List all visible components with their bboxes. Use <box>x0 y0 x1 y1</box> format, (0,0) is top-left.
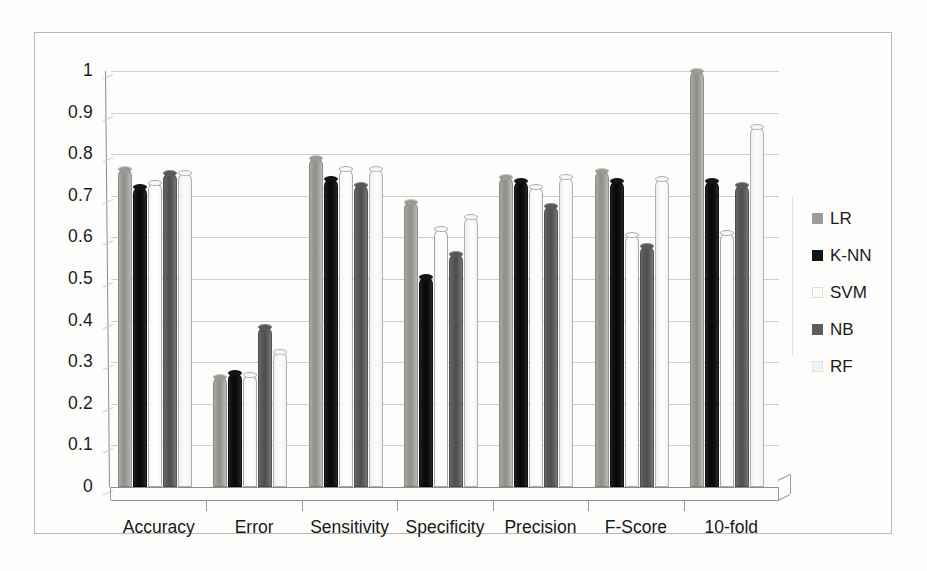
bar <box>309 158 323 487</box>
plot-area: 00.10.20.30.40.50.60.70.80.91 AccuracyEr… <box>111 71 779 487</box>
bar <box>228 373 242 487</box>
y-axis-tick-label: 0.1 <box>33 434 93 455</box>
bar-cap <box>273 349 287 355</box>
x-axis-tick-label: 10-fold <box>661 517 801 538</box>
plot-floor-left-edge <box>110 487 111 500</box>
bar-cap <box>309 155 323 161</box>
bar <box>369 169 383 487</box>
legend-swatch-icon <box>812 250 823 261</box>
bar-group <box>595 71 669 487</box>
bar <box>610 181 624 487</box>
legend-item-label: NB <box>830 320 854 340</box>
bar-cap <box>354 182 368 188</box>
bar <box>690 71 704 487</box>
bar <box>434 229 448 487</box>
bar-group <box>118 71 192 487</box>
bar-cap <box>529 184 543 190</box>
y-axis-tick-label: 0.7 <box>33 185 93 206</box>
bar <box>720 233 734 487</box>
legend-item-k-nn[interactable]: K-NN <box>812 237 890 274</box>
legend-swatch-icon <box>812 287 823 298</box>
y-axis-tick-label: 0.8 <box>33 143 93 164</box>
y-axis-tick-label: 0.4 <box>33 310 93 331</box>
legend-item-lr[interactable]: LR <box>812 200 890 237</box>
bar-cap <box>655 176 669 182</box>
bar <box>464 217 478 487</box>
legend-swatch-icon <box>812 324 823 335</box>
bar-cap <box>625 232 639 238</box>
chart-legend: LRK-NNSVMNBRF <box>812 200 890 385</box>
y-axis-tick-label: 0.6 <box>33 226 93 247</box>
plot-floor-top-edge <box>111 487 779 488</box>
legend-item-rf[interactable]: RF <box>812 348 890 385</box>
bar <box>243 375 257 487</box>
bar <box>163 173 177 487</box>
bar <box>118 169 132 487</box>
bar-cap <box>750 124 764 130</box>
bar <box>544 206 558 487</box>
bar-group <box>309 71 383 487</box>
y-axis-tick-label: 0.5 <box>33 268 93 289</box>
bar <box>750 127 764 487</box>
bar <box>354 185 368 487</box>
plot-floor-front-edge <box>111 500 779 501</box>
legend-item-svm[interactable]: SVM <box>812 274 890 311</box>
bar-cap <box>559 174 573 180</box>
x-axis-separator-tick <box>588 500 589 511</box>
bar-cap <box>514 178 528 184</box>
bar <box>735 185 749 487</box>
bar-cap <box>133 184 147 190</box>
y-axis-tick-label: 0.9 <box>33 102 93 123</box>
bar-cap <box>610 178 624 184</box>
y-axis-tick-label: 0.3 <box>33 351 93 372</box>
bar <box>449 254 463 487</box>
bar <box>499 177 513 487</box>
bar-cap <box>720 230 734 236</box>
bar-cap <box>163 170 177 176</box>
bar-cap <box>735 182 749 188</box>
legend-swatch-icon <box>812 213 823 224</box>
bar <box>273 352 287 487</box>
x-axis-separator-tick <box>493 500 494 511</box>
bar-group <box>499 71 573 487</box>
legend-swatch-icon <box>812 361 823 372</box>
bar-group <box>404 71 478 487</box>
bar-cap <box>178 170 192 176</box>
bar-groups <box>111 71 779 487</box>
bar-cap <box>213 374 227 380</box>
bar <box>258 327 272 487</box>
chart-screenshot: 00.10.20.30.40.50.60.70.80.91 AccuracyEr… <box>0 0 927 571</box>
bar <box>148 183 162 487</box>
bar-cap <box>339 166 353 172</box>
bar <box>339 169 353 487</box>
bar-cap <box>243 372 257 378</box>
x-axis-separator-tick <box>302 500 303 511</box>
bar <box>404 202 418 487</box>
bar <box>419 277 433 487</box>
bar-cap <box>369 166 383 172</box>
bar-cap <box>258 324 272 330</box>
y-axis-tick-label: 0 <box>33 476 93 497</box>
y-axis-tick-label: 0.2 <box>33 393 93 414</box>
bar <box>178 173 192 487</box>
bar-cap <box>690 68 704 74</box>
legend-item-nb[interactable]: NB <box>812 311 890 348</box>
bar-group <box>213 71 287 487</box>
bar-cap <box>705 178 719 184</box>
x-axis-separator-tick <box>684 500 685 511</box>
bar-group <box>690 71 764 487</box>
x-axis-separator-tick <box>397 500 398 511</box>
bar-cap <box>434 226 448 232</box>
bar <box>213 377 227 487</box>
bar-cap <box>464 214 478 220</box>
bar <box>133 187 147 487</box>
bar-cap <box>228 370 242 376</box>
legend-item-label: RF <box>830 357 853 377</box>
x-axis-separator-tick <box>206 500 207 511</box>
bar-cap <box>419 274 433 280</box>
legend-divider <box>792 196 793 356</box>
bar-cap <box>404 199 418 205</box>
bar <box>705 181 719 487</box>
bar <box>529 187 543 487</box>
legend-item-label: SVM <box>830 283 867 303</box>
